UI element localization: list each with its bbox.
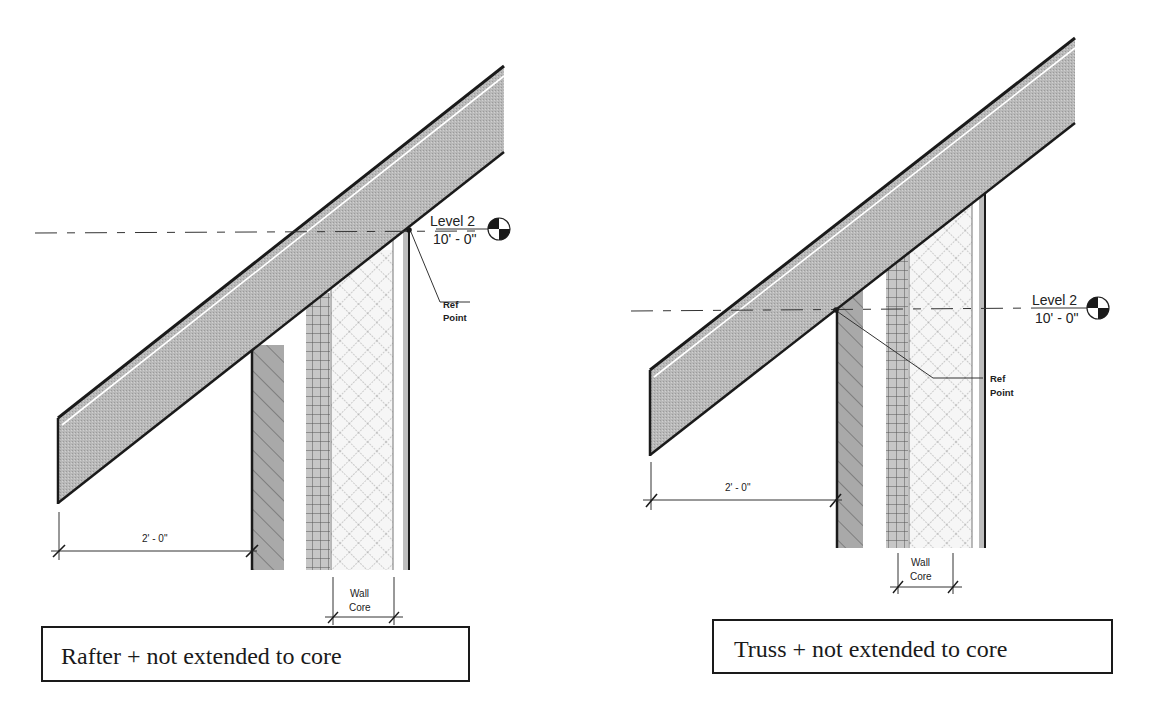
wall-finish-layer	[836, 290, 863, 548]
level-elevation: 10' - 0"	[433, 231, 476, 247]
level-datum-icon	[488, 218, 510, 240]
level-name: Level 2	[430, 213, 475, 229]
truss-diagram: Level 2 10' - 0" Ref Point 2' - 0" Wall …	[631, 38, 1112, 673]
wall-core-label: Wall	[911, 557, 930, 568]
level-2-marker: Level 2 10' - 0"	[35, 213, 510, 247]
wall-insulation-layer	[331, 250, 393, 570]
wall-core-label: Wall	[350, 588, 369, 599]
overhang-dimension-value: 2' - 0"	[725, 482, 751, 493]
ref-label: Ref	[990, 373, 1006, 384]
ref-label-2: Point	[990, 387, 1015, 398]
ref-label: Ref	[443, 299, 459, 310]
wall-core-dimension: Wall Core	[325, 577, 403, 625]
figure-canvas: Level 2 10' - 0" Ref Point 2' - 0" Wall	[0, 0, 1166, 718]
wall-finish-layer	[251, 345, 284, 570]
level-2-marker: Level 2 10' - 0"	[631, 292, 1109, 326]
wall-masonry-layer	[306, 293, 330, 570]
wall-core-label-2: Core	[349, 602, 371, 613]
caption-text: Truss + not extended to core	[734, 636, 1007, 662]
caption-text: Rafter + not extended to core	[61, 643, 342, 669]
wall-core-label-2: Core	[910, 571, 932, 582]
level-name: Level 2	[1032, 292, 1077, 308]
ref-point-dot	[406, 227, 412, 233]
level-elevation: 10' - 0"	[1035, 310, 1078, 326]
wall-core-dimension: Wall Core	[890, 553, 962, 594]
caption-box: Rafter + not extended to core	[42, 627, 469, 681]
level-datum-icon	[1087, 297, 1109, 319]
overhang-dimension-value: 2' - 0"	[142, 533, 168, 544]
caption-box: Truss + not extended to core	[713, 620, 1112, 673]
wall-masonry-layer	[886, 254, 908, 548]
overhang-dimension: 2' - 0"	[51, 512, 258, 560]
ref-point-dot	[833, 307, 839, 313]
ref-label-2: Point	[443, 312, 468, 323]
rafter-diagram: Level 2 10' - 0" Ref Point 2' - 0" Wall	[35, 66, 510, 681]
overhang-dimension: 2' - 0"	[643, 462, 842, 510]
